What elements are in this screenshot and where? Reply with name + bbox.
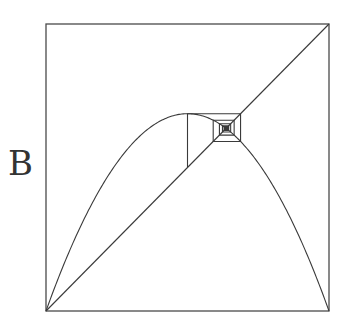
cobweb-diagram	[0, 0, 352, 329]
